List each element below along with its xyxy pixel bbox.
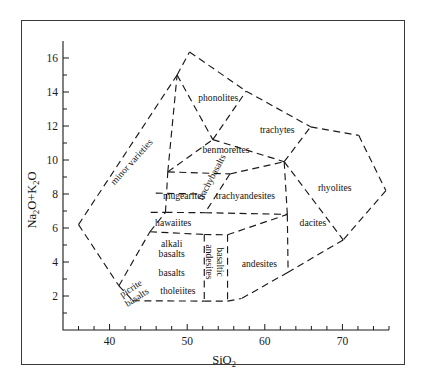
field-boundary-line <box>228 214 288 234</box>
field-label-line: andesites <box>242 258 277 269</box>
field-boundary-line <box>343 191 386 240</box>
y-axis-tick-label: 10 <box>47 154 59 166</box>
field-boundary-line <box>228 299 242 302</box>
field-label-line: phonolites <box>198 92 238 103</box>
field-boundary-line <box>288 240 343 272</box>
y-axis-title: Na2O+K2O <box>25 171 41 228</box>
y-axis-tick-label: 12 <box>47 120 59 132</box>
field-label-tholeiites: tholeiites <box>160 285 195 296</box>
field-label-basaltic-andesites: basalticandesites <box>204 244 226 279</box>
field-label-hawaiites: hawaiites <box>155 217 191 228</box>
field-label-line: tholeiites <box>160 285 195 296</box>
y-axis-title-part: Na <box>25 213 39 228</box>
x-axis-tick-label: 70 <box>337 335 349 347</box>
x-axis-tick-label: 50 <box>181 335 193 347</box>
field-boundary-line <box>150 232 204 235</box>
field-boundary-line <box>168 75 177 172</box>
field-label-alkali-basalts: alkalibasalts <box>159 238 185 260</box>
y-axis-title-part: O+K <box>25 185 39 210</box>
figure-page: 24681012141640506070 minor varietiesphon… <box>0 0 425 386</box>
field-boundary-line <box>246 91 310 127</box>
field-label-line: benmoreites <box>203 144 250 155</box>
field-label-line: hawaiites <box>155 217 191 228</box>
field-label-benmoreites: benmoreites <box>203 144 250 155</box>
field-label-line: trachytes <box>260 124 295 135</box>
field-label-line: andesites <box>204 244 215 279</box>
field-label-line: basaltic <box>215 247 226 276</box>
field-label-basalts: basalts <box>159 267 185 278</box>
field-boundary-line <box>177 75 213 140</box>
y-axis-tick-label: 4 <box>52 256 58 268</box>
x-axis-tick-label: 40 <box>104 335 116 347</box>
x-axis-title-main: SiO <box>212 353 231 367</box>
field-label-mugearites: mugearites <box>163 190 205 201</box>
field-boundary-line <box>242 272 289 298</box>
field-label-line: alkali <box>161 238 183 249</box>
x-axis-tick-label: 60 <box>259 335 271 347</box>
tas-diagram-svg: 24681012141640506070 minor varietiesphon… <box>0 0 425 386</box>
field-boundary-line <box>284 162 287 215</box>
y-axis-tick-label: 2 <box>52 290 58 302</box>
y-axis-tick-label: 16 <box>47 52 59 64</box>
x-axis-title-subscript: 2 <box>232 360 236 369</box>
field-label-line: dacites <box>300 217 327 228</box>
field-label-trachytes: trachytes <box>260 124 295 135</box>
field-boundary-line <box>311 127 359 136</box>
field-label-line: mugearites <box>163 190 205 201</box>
field-boundary-line <box>177 52 189 75</box>
field-label-line: basalts <box>159 248 185 259</box>
field-label-line: trachyandesites <box>216 190 275 201</box>
field-boundary-line <box>190 52 247 91</box>
field-boundary-line <box>79 75 178 225</box>
y-axis-tick-label: 14 <box>47 86 59 98</box>
field-label-phonolites: phonolites <box>198 92 238 103</box>
field-label-dacites: dacites <box>300 217 327 228</box>
x-axis-title: SiO2 <box>212 353 236 369</box>
y-axis-tick-label: 6 <box>52 222 58 234</box>
field-boundary-line <box>119 232 150 286</box>
field-label-rhyolites: rhyolites <box>318 182 352 193</box>
y-axis-title-part: O <box>25 171 39 180</box>
field-boundary-line <box>359 135 386 190</box>
field-boundary-line <box>168 172 230 174</box>
field-boundary-line <box>230 162 284 174</box>
field-boundary-line <box>79 225 119 286</box>
field-label-trachyandesites: trachyandesites <box>216 190 275 201</box>
field-boundary-line <box>205 213 287 215</box>
field-label-line: rhyolites <box>318 182 352 193</box>
field-label-andesites: andesites <box>242 258 277 269</box>
field-label-line: basalts <box>159 267 185 278</box>
y-axis-tick-label: 8 <box>52 188 58 200</box>
field-boundary-line <box>287 214 288 272</box>
